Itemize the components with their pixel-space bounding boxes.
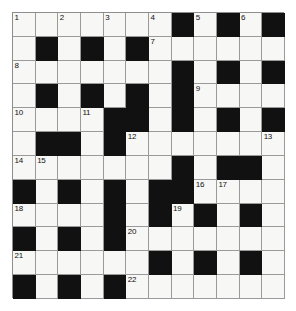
grid-cell[interactable]	[126, 13, 149, 37]
grid-cell[interactable]	[36, 13, 59, 37]
grid-cell[interactable]	[149, 156, 172, 180]
crossword-grid[interactable]: 12345678910111213141516171819202122	[12, 12, 284, 298]
grid-cell[interactable]	[104, 156, 127, 180]
grid-cell[interactable]	[240, 132, 263, 156]
grid-cell[interactable]: 5	[194, 13, 217, 37]
grid-cell[interactable]: 1	[13, 13, 36, 37]
grid-cell[interactable]	[36, 275, 59, 299]
grid-cell[interactable]	[217, 84, 240, 108]
grid-cell[interactable]	[81, 227, 104, 251]
grid-cell[interactable]	[262, 275, 285, 299]
grid-cell[interactable]: 16	[194, 180, 217, 204]
grid-cell[interactable]	[172, 227, 195, 251]
grid-cell[interactable]	[194, 132, 217, 156]
grid-cell[interactable]	[81, 132, 104, 156]
grid-cell[interactable]	[262, 251, 285, 275]
grid-cell[interactable]	[81, 13, 104, 37]
grid-cell[interactable]	[217, 251, 240, 275]
grid-cell[interactable]	[262, 227, 285, 251]
grid-cell[interactable]	[240, 275, 263, 299]
grid-cell[interactable]: 8	[13, 61, 36, 85]
grid-cell[interactable]	[36, 108, 59, 132]
grid-cell[interactable]	[58, 204, 81, 228]
grid-cell[interactable]: 9	[194, 84, 217, 108]
grid-cell[interactable]	[126, 61, 149, 85]
grid-cell[interactable]	[81, 204, 104, 228]
grid-cell[interactable]	[81, 180, 104, 204]
grid-cell[interactable]	[194, 61, 217, 85]
grid-cell[interactable]: 20	[126, 227, 149, 251]
grid-cell[interactable]: 2	[58, 13, 81, 37]
grid-cell[interactable]	[104, 37, 127, 61]
grid-cell[interactable]: 17	[217, 180, 240, 204]
grid-cell[interactable]	[262, 156, 285, 180]
grid-cell[interactable]	[126, 180, 149, 204]
grid-cell[interactable]	[126, 156, 149, 180]
grid-cell[interactable]	[194, 227, 217, 251]
grid-cell[interactable]	[13, 84, 36, 108]
grid-cell[interactable]	[172, 275, 195, 299]
grid-cell[interactable]	[81, 275, 104, 299]
grid-cell[interactable]: 11	[81, 108, 104, 132]
grid-cell[interactable]	[58, 251, 81, 275]
grid-cell[interactable]	[262, 84, 285, 108]
grid-cell[interactable]	[13, 132, 36, 156]
grid-cell[interactable]: 19	[172, 204, 195, 228]
grid-cell[interactable]: 3	[104, 13, 127, 37]
grid-cell[interactable]	[36, 180, 59, 204]
grid-cell[interactable]: 15	[36, 156, 59, 180]
grid-cell[interactable]	[58, 61, 81, 85]
grid-cell[interactable]	[194, 37, 217, 61]
grid-cell[interactable]	[262, 37, 285, 61]
grid-cell[interactable]	[58, 108, 81, 132]
grid-cell[interactable]	[217, 132, 240, 156]
grid-cell[interactable]	[194, 108, 217, 132]
grid-cell[interactable]	[104, 61, 127, 85]
grid-cell[interactable]: 22	[126, 275, 149, 299]
grid-cell[interactable]	[81, 251, 104, 275]
grid-cell[interactable]	[149, 227, 172, 251]
grid-cell[interactable]	[217, 204, 240, 228]
grid-cell[interactable]	[81, 156, 104, 180]
grid-cell[interactable]: 18	[13, 204, 36, 228]
grid-cell[interactable]	[126, 251, 149, 275]
grid-cell[interactable]	[126, 204, 149, 228]
grid-cell[interactable]	[149, 84, 172, 108]
grid-cell[interactable]	[217, 227, 240, 251]
grid-cell[interactable]	[58, 37, 81, 61]
grid-cell[interactable]	[58, 84, 81, 108]
grid-cell[interactable]: 10	[13, 108, 36, 132]
grid-cell[interactable]	[262, 180, 285, 204]
grid-cell[interactable]	[36, 251, 59, 275]
grid-cell[interactable]	[104, 251, 127, 275]
grid-cell[interactable]	[172, 37, 195, 61]
grid-cell[interactable]	[240, 108, 263, 132]
grid-cell[interactable]	[240, 227, 263, 251]
grid-cell[interactable]	[36, 61, 59, 85]
grid-cell[interactable]	[172, 251, 195, 275]
grid-cell[interactable]: 14	[13, 156, 36, 180]
grid-cell[interactable]	[217, 37, 240, 61]
grid-cell[interactable]	[217, 275, 240, 299]
grid-cell[interactable]: 6	[240, 13, 263, 37]
grid-cell[interactable]: 12	[126, 132, 149, 156]
grid-cell[interactable]	[240, 180, 263, 204]
grid-cell[interactable]	[194, 275, 217, 299]
grid-cell[interactable]	[240, 61, 263, 85]
grid-cell[interactable]	[262, 204, 285, 228]
grid-cell[interactable]	[13, 37, 36, 61]
grid-cell[interactable]	[36, 204, 59, 228]
grid-cell[interactable]	[240, 37, 263, 61]
grid-cell[interactable]: 7	[149, 37, 172, 61]
grid-cell[interactable]	[36, 227, 59, 251]
grid-cell[interactable]: 4	[149, 13, 172, 37]
grid-cell[interactable]	[149, 108, 172, 132]
grid-cell[interactable]	[81, 61, 104, 85]
grid-cell[interactable]	[58, 156, 81, 180]
grid-cell[interactable]: 13	[262, 132, 285, 156]
grid-cell[interactable]	[149, 275, 172, 299]
grid-cell[interactable]	[194, 156, 217, 180]
grid-cell[interactable]	[240, 84, 263, 108]
grid-cell[interactable]	[104, 84, 127, 108]
grid-cell[interactable]	[149, 61, 172, 85]
